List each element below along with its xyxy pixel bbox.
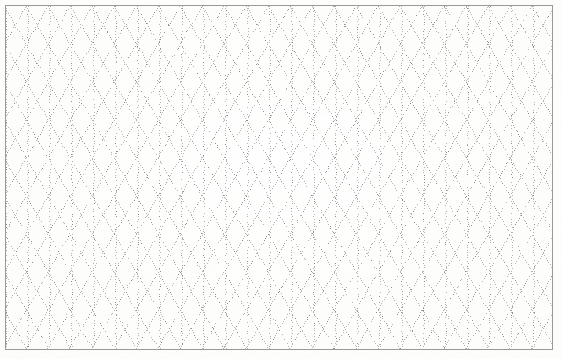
scanned-page: Scanned sheet of isometric (triangular) … bbox=[0, 0, 562, 359]
isometric-dot-grid bbox=[6, 6, 553, 350]
printed-rectangular-border bbox=[5, 5, 553, 350]
